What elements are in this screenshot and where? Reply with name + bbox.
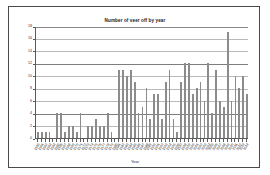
bar (138, 113, 140, 138)
x-axis-title: Year (9, 159, 261, 164)
plot-area (35, 27, 248, 139)
bar (184, 63, 186, 138)
bar (146, 88, 148, 138)
bar (99, 126, 101, 138)
bar (91, 126, 93, 138)
chart-title: Number of veer off by year (9, 18, 261, 23)
y-tick-label: 16 (28, 38, 32, 42)
bar (161, 119, 163, 138)
bar (87, 126, 89, 138)
y-tick-label: 0 (30, 137, 32, 141)
bar (95, 119, 97, 138)
bar (192, 94, 194, 138)
bar (72, 126, 74, 138)
bar (180, 82, 182, 138)
bar (219, 101, 221, 138)
bar (118, 70, 120, 138)
y-tick-label: 4 (30, 112, 32, 116)
y-tick-label: 14 (28, 50, 32, 54)
bar (238, 88, 240, 138)
bar (76, 132, 78, 138)
y-tick-label: 2 (30, 125, 32, 129)
bar (157, 94, 159, 138)
bar (188, 63, 190, 138)
bar (196, 88, 198, 138)
bar (130, 70, 132, 138)
bar (173, 119, 175, 138)
y-tick-label: 10 (28, 75, 32, 79)
chart-figure: Number of veer off by year 0246810121416… (8, 6, 260, 168)
y-tick-label: 8 (30, 87, 32, 91)
bar (207, 63, 209, 138)
bar (165, 82, 167, 138)
bar (242, 76, 244, 138)
bar (142, 107, 144, 138)
bar (122, 70, 124, 138)
bar (200, 82, 202, 138)
bar (134, 82, 136, 138)
bar (153, 94, 155, 138)
y-tick-label: 18 (28, 25, 32, 29)
bar (176, 132, 178, 138)
bar (68, 126, 70, 138)
bar (49, 132, 51, 138)
bar (45, 132, 47, 138)
bar (211, 113, 213, 138)
bar (111, 132, 113, 138)
bar (231, 101, 233, 138)
bar (126, 76, 128, 138)
bar (56, 113, 58, 138)
bar (80, 113, 82, 138)
y-tick-label: 12 (28, 63, 32, 67)
x-tick-label: 2014 (243, 143, 250, 151)
bar (227, 32, 229, 138)
bar (235, 76, 237, 138)
bar (204, 101, 206, 138)
bar-series (36, 27, 248, 138)
bar (149, 119, 151, 138)
bar (107, 113, 109, 138)
bar (215, 70, 217, 138)
bar (37, 132, 39, 138)
bar (246, 94, 248, 138)
bar (64, 132, 66, 138)
bar (223, 107, 225, 138)
bar (41, 132, 43, 138)
bar (169, 70, 171, 138)
bar (103, 126, 105, 138)
y-axis: 024681012141618 (9, 27, 35, 139)
y-tick-label: 6 (30, 100, 32, 104)
bar (60, 113, 62, 138)
